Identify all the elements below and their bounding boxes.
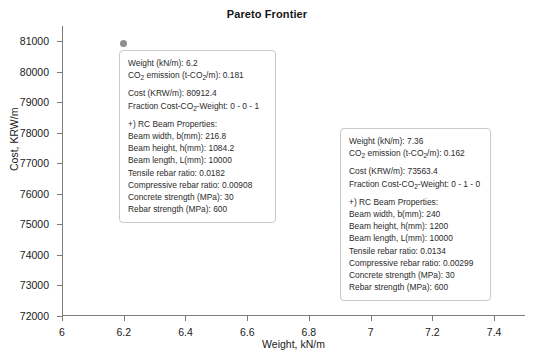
x-tick-label: 7.2 [425, 326, 440, 338]
y-tick-label: 77000 [20, 157, 49, 169]
y-tick: 73000 [57, 285, 62, 286]
callout-point-1: Weight (kN/m): 6.2CO2 emission (t-CO2/m)… [119, 50, 276, 223]
y-axis-line [62, 26, 63, 316]
annotation-fraction: Fraction Cost-CO2-Weight: 0 - 0 - 1 [128, 100, 267, 113]
x-tick: 6 [62, 316, 63, 321]
y-tick: 81000 [57, 41, 62, 42]
x-tick: 7 [371, 316, 372, 321]
x-tick-label: 6 [59, 326, 65, 338]
y-axis-label: Cost, KRW/m [8, 108, 20, 171]
annotation-cost: Cost (KRW/m): 80912.4 [128, 87, 267, 99]
y-tick: 74000 [57, 255, 62, 256]
x-tick: 6.8 [309, 316, 310, 321]
annotation-property: Beam length, L(mm): 10000 [128, 154, 267, 166]
annotation-fraction: Fraction Cost-CO2-Weight: 0 - 1 - 0 [349, 178, 482, 191]
x-tick: 6.2 [124, 316, 125, 321]
x-axis-label: Weight, kN/m [62, 338, 525, 350]
x-tick: 6.6 [247, 316, 248, 321]
annotation-property: Compressive rebar ratio: 0.00908 [128, 179, 267, 191]
annotation-property: Compressive rebar ratio: 0.00299 [349, 257, 482, 269]
annotation-property: Beam width, b(mm): 240 [349, 208, 482, 220]
y-tick-label: 72000 [20, 310, 49, 322]
annotation-section-header: +) RC Beam Properties: [128, 118, 267, 130]
annotation-weight: Weight (kN/m): 6.2 [128, 57, 267, 69]
y-tick-label: 78000 [20, 127, 49, 139]
annotation-section-header: +) RC Beam Properties: [349, 196, 482, 208]
annotation-property: Beam length, L(mm): 10000 [349, 232, 482, 244]
annotation-property: Rebar strength (MPa): 600 [128, 203, 267, 215]
y-tick-label: 75000 [20, 218, 49, 230]
y-tick-label: 80000 [20, 66, 49, 78]
annotation-co2-emission: CO2 emission (t-CO2/m): 0.181 [128, 69, 267, 82]
x-tick-label: 7 [368, 326, 374, 338]
y-tick: 80000 [57, 72, 62, 73]
x-tick: 6.4 [185, 316, 186, 321]
y-tick: 75000 [57, 224, 62, 225]
x-axis-line [62, 315, 525, 316]
callout-point-2: Weight (kN/m): 7.36CO2 emission (t-CO2/m… [340, 128, 491, 301]
y-tick-label: 81000 [20, 35, 49, 47]
annotation-property: Concrete strength (MPa): 30 [349, 269, 482, 281]
y-tick-label: 74000 [20, 249, 49, 261]
annotation-property: Rebar strength (MPa): 600 [349, 281, 482, 293]
y-tick: 79000 [57, 102, 62, 103]
chart-canvas: Pareto Frontier 720007300074000750007600… [0, 0, 534, 361]
y-tick-label: 76000 [20, 188, 49, 200]
x-tick-label: 6.4 [178, 326, 193, 338]
x-tick-label: 6.2 [116, 326, 131, 338]
y-tick: 78000 [57, 133, 62, 134]
annotation-property: Beam height, h(mm): 1084.2 [128, 142, 267, 154]
y-tick: 77000 [57, 163, 62, 164]
x-tick-label: 6.6 [240, 326, 255, 338]
x-tick: 7.2 [432, 316, 433, 321]
annotation-cost: Cost (KRW/m): 73563.4 [349, 165, 482, 177]
annotation-property: Beam width, b(mm): 216.8 [128, 130, 267, 142]
page-title: Pareto Frontier [0, 8, 534, 20]
y-tick-label: 79000 [20, 96, 49, 108]
annotation-weight: Weight (kN/m): 7.36 [349, 135, 482, 147]
x-tick: 7.4 [494, 316, 495, 321]
y-tick-label: 73000 [20, 279, 49, 291]
annotation-property: Concrete strength (MPa): 30 [128, 191, 267, 203]
y-tick: 76000 [57, 194, 62, 195]
annotation-property: Tensile rebar ratio: 0.0182 [128, 167, 267, 179]
x-tick-label: 7.4 [487, 326, 502, 338]
data-point[interactable] [120, 40, 127, 47]
x-tick-label: 6.8 [302, 326, 317, 338]
annotation-property: Beam height, h(mm): 1200 [349, 220, 482, 232]
annotation-co2-emission: CO2 emission (t-CO2/m): 0.162 [349, 147, 482, 160]
annotation-property: Tensile rebar ratio: 0.0134 [349, 245, 482, 257]
